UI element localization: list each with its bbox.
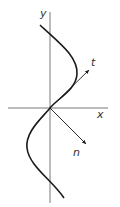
- curve-diagram: y x t n: [0, 0, 120, 207]
- x-axis-label: x: [96, 108, 104, 121]
- normal-vector: [50, 108, 86, 144]
- tangent-label: t: [91, 56, 96, 69]
- normal-label: n: [73, 146, 80, 159]
- tangent-vector: [50, 70, 89, 108]
- sine-curve: [27, 25, 77, 198]
- y-axis-label: y: [39, 7, 47, 20]
